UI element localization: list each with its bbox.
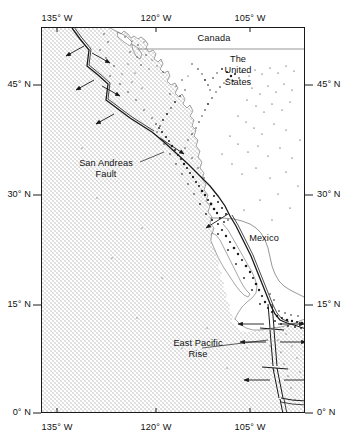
axis-label-top-120w: 120° W — [121, 13, 191, 23]
axis-label-right-45n: 45° N — [317, 79, 347, 89]
axis-label-bottom-105w: 105° W — [215, 422, 285, 432]
axis-label-left-0n: 0° N — [0, 407, 31, 417]
seismicity-plate-boundary-map: Canada The United States Mexico San Andr… — [0, 0, 347, 444]
axis-label-left-30n: 30° N — [0, 189, 31, 199]
axis-label-right-30n: 30° N — [317, 189, 347, 199]
axis-tick-layer — [0, 0, 347, 444]
axis-label-bottom-135w: 135° W — [22, 422, 92, 432]
axis-label-right-0n: 0° N — [317, 407, 347, 417]
axis-label-top-105w: 105° W — [215, 13, 285, 23]
axis-label-top-135w: 135° W — [22, 13, 92, 23]
axis-label-left-15n: 15° N — [0, 299, 31, 309]
axis-label-right-15n: 15° N — [317, 299, 347, 309]
axis-label-left-45n: 45° N — [0, 79, 31, 89]
axis-label-bottom-120w: 120° W — [121, 422, 191, 432]
